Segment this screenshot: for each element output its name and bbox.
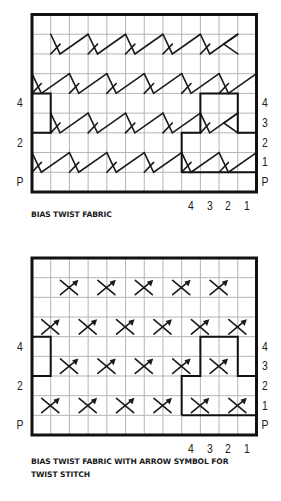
arrowhead-icon	[91, 398, 97, 405]
caption-line: BIAS TWIST FABRIC WITH ARROW SYMBOL FOR	[31, 455, 228, 468]
arrowhead-icon	[72, 359, 78, 366]
row-label-left: P	[15, 417, 25, 432]
arrowhead-icon	[110, 359, 116, 366]
arrowhead-icon	[166, 319, 172, 326]
row-label-right: 2	[260, 378, 270, 393]
arrowhead-icon	[240, 319, 246, 326]
arrowhead-icon	[184, 359, 190, 366]
arrowhead-icon	[128, 398, 134, 405]
arrowhead-icon	[222, 280, 228, 287]
row-label-left: 4	[15, 339, 25, 354]
row-label-right: 3	[260, 358, 270, 373]
arrowhead-icon	[184, 280, 190, 287]
arrowhead-icon	[222, 359, 228, 366]
arrowhead-icon	[72, 280, 78, 287]
column-label: 1	[242, 441, 252, 456]
row-label-left: 2	[15, 378, 25, 393]
knitting-chart-grid	[0, 0, 281, 501]
arrowhead-icon	[91, 319, 97, 326]
arrowhead-icon	[147, 280, 153, 287]
arrowhead-icon	[203, 319, 209, 326]
arrowhead-icon	[240, 398, 246, 405]
arrowhead-icon	[147, 359, 153, 366]
arrowhead-icon	[166, 398, 172, 405]
caption-line: TWIST STITCH	[31, 468, 228, 481]
column-label: 4	[186, 441, 196, 456]
arrowhead-icon	[110, 280, 116, 287]
row-label-right: P	[260, 417, 270, 432]
chart-bias-twist-fabric-arrow: BIAS TWIST FABRIC WITH ARROW SYMBOL FOR …	[0, 0, 281, 501]
arrowhead-icon	[53, 319, 59, 326]
arrowhead-icon	[128, 319, 134, 326]
arrowhead-icon	[53, 398, 59, 405]
row-label-right: 1	[260, 398, 270, 413]
row-label-right: 4	[260, 339, 270, 354]
chart-caption: BIAS TWIST FABRIC WITH ARROW SYMBOL FOR …	[31, 455, 228, 481]
column-label: 3	[205, 441, 215, 456]
arrowhead-icon	[203, 398, 209, 405]
column-label: 2	[224, 441, 234, 456]
